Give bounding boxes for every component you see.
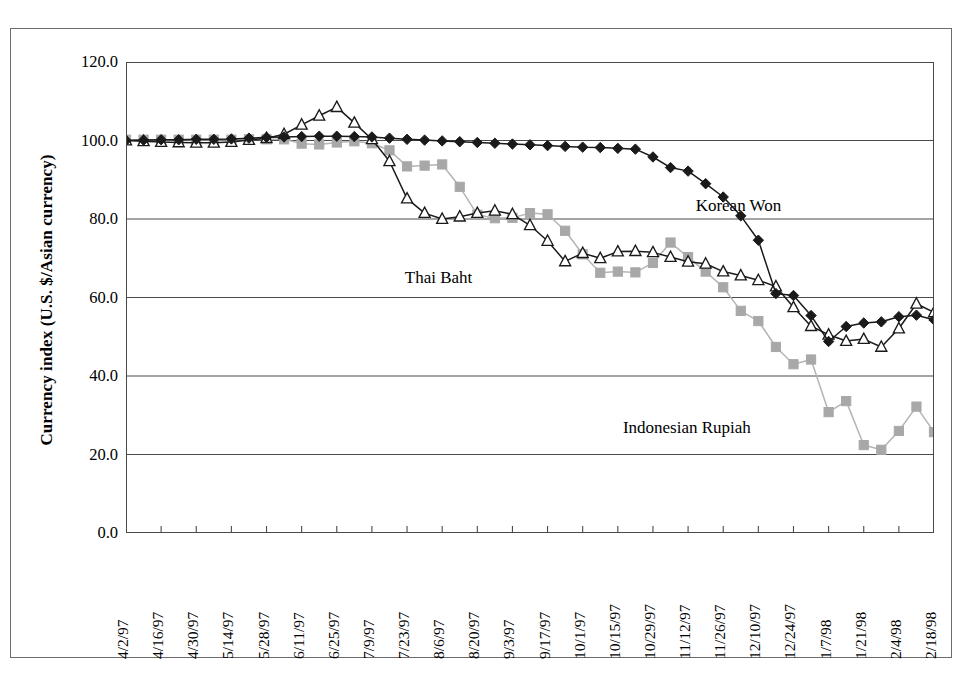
x-tick-label: 7/23/97 [395, 612, 413, 659]
x-tick-label: 11/26/97 [711, 604, 729, 659]
x-tick-label: 8/20/97 [465, 612, 483, 659]
y-tick-label: 60.0 [89, 288, 118, 308]
x-tick-label: 2/4/98 [887, 619, 905, 659]
x-tick-label: 4/30/97 [184, 612, 202, 659]
series-annotation-indonesian-rupiah: Indonesian Rupiah [623, 418, 751, 438]
plot-frame [126, 62, 934, 533]
y-tick-label: 120.0 [81, 52, 118, 72]
x-tick-label: 6/11/97 [290, 612, 308, 659]
x-tick-label: 12/10/97 [746, 604, 764, 659]
y-tick-label: 80.0 [89, 209, 118, 229]
x-tick-label: 2/18/98 [922, 612, 940, 659]
y-tick-label: 20.0 [89, 445, 118, 465]
x-tick-label: 9/17/97 [536, 612, 554, 659]
x-axis-tick-labels: 4/2/974/16/974/30/975/14/975/28/976/11/9… [126, 539, 934, 659]
y-axis-tick-labels: 0.020.040.060.080.0100.0120.0 [44, 62, 118, 533]
y-tick-label: 100.0 [81, 131, 118, 151]
x-tick-label: 9/3/97 [500, 619, 518, 659]
x-tick-label: 1/21/98 [852, 612, 870, 659]
y-tick-label: 40.0 [89, 366, 118, 386]
series-annotation-thai-baht: Thai Baht [405, 268, 473, 288]
x-tick-label: 10/1/97 [571, 612, 589, 659]
x-tick-label: 1/7/98 [817, 619, 835, 659]
x-tick-label: 12/24/97 [781, 604, 799, 659]
x-tick-label: 7/9/97 [360, 619, 378, 659]
x-tick-label: 5/28/97 [255, 612, 273, 659]
x-tick-label: 10/29/97 [641, 604, 659, 659]
x-tick-label: 6/25/97 [325, 612, 343, 659]
chart-figure: Currency index (U.S. $/Asian currency) 0… [0, 0, 964, 685]
x-tick-label: 8/6/97 [430, 619, 448, 659]
x-tick-label: 10/15/97 [606, 604, 624, 659]
x-tick-label: 11/12/97 [676, 604, 694, 659]
series-annotation-korean-won: Korean Won [696, 196, 782, 216]
y-tick-label: 0.0 [97, 523, 118, 543]
x-tick-label: 5/14/97 [219, 612, 237, 659]
plot-area [126, 62, 934, 533]
x-tick-label: 4/2/97 [114, 619, 132, 659]
x-tick-label: 4/16/97 [149, 612, 167, 659]
